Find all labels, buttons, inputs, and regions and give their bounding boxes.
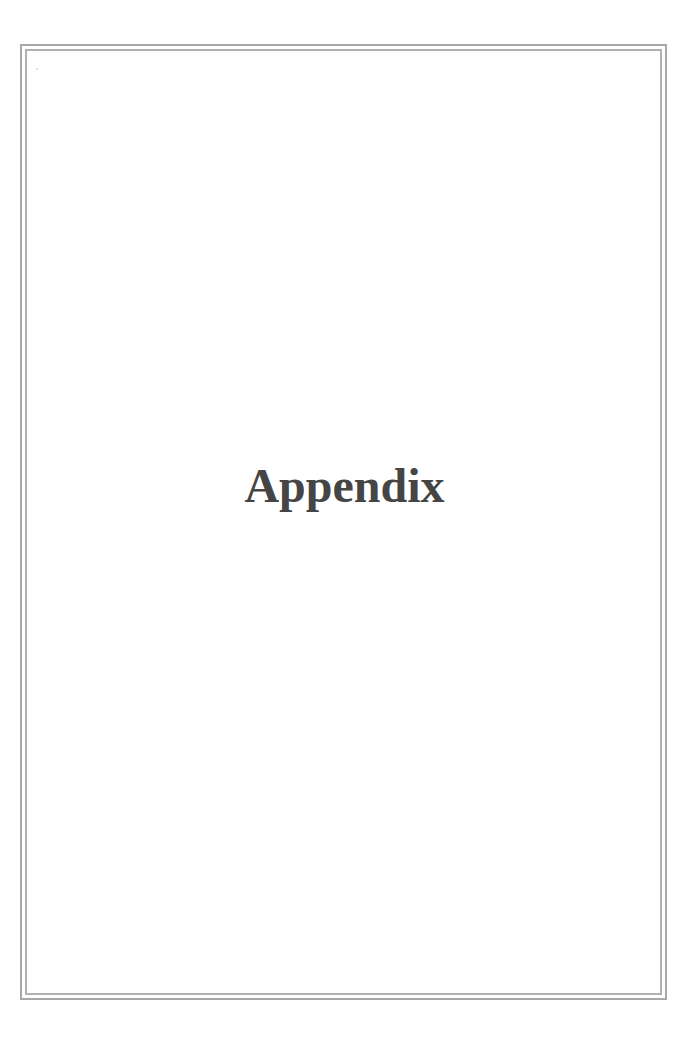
page-border-outer bbox=[20, 44, 667, 1000]
document-page: Appendix bbox=[0, 0, 689, 1047]
section-title: Appendix bbox=[0, 458, 689, 514]
scan-artifact bbox=[36, 68, 38, 70]
page-border-inner bbox=[25, 49, 662, 995]
